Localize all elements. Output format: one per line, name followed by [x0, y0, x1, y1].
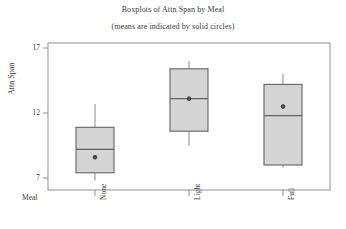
mean-marker [187, 97, 191, 101]
plot-area [0, 0, 346, 229]
boxplot-group [264, 74, 302, 168]
box-iqr [264, 84, 302, 165]
mean-marker [281, 105, 285, 109]
boxplot-chart: Boxplots of Attn Span by Meal (means are… [0, 0, 346, 229]
boxplot-group [76, 104, 114, 181]
box-iqr [76, 127, 114, 173]
boxplot-group [170, 61, 208, 146]
mean-marker [93, 155, 97, 159]
